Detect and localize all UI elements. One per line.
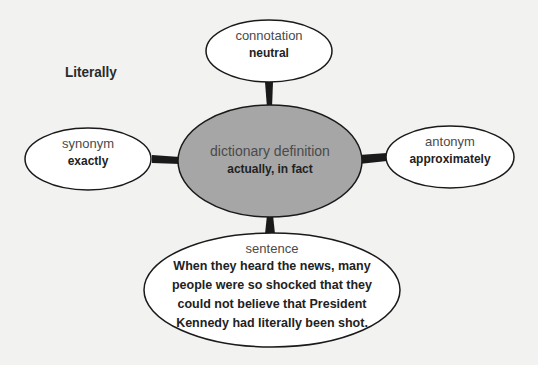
- synonym-label: synonym exactly: [25, 135, 151, 169]
- sentence-line: When they heard the news, many: [144, 257, 400, 276]
- sentence-line: Kennedy had literally been shot.: [144, 314, 400, 333]
- antonym-category: antonym: [386, 133, 514, 150]
- connector-synonym: [152, 155, 180, 164]
- antonym-value: approximately: [391, 150, 509, 167]
- center-label: dictionary definition actually, in fact: [178, 143, 362, 177]
- center-value: actually, in fact: [185, 160, 354, 177]
- connotation-category: connotation: [206, 27, 332, 44]
- connector-sentence: [265, 215, 275, 234]
- connotation-value: neutral: [211, 44, 327, 61]
- sentence-category: sentence: [144, 240, 400, 257]
- diagram-title: Literally: [65, 63, 117, 80]
- center-category: dictionary definition: [178, 143, 362, 160]
- sentence-label: sentence When they heard the news, many …: [144, 240, 400, 333]
- connector-antonym: [359, 153, 387, 164]
- connotation-label: connotation neutral: [206, 27, 332, 61]
- sentence-line: could not believe that President: [144, 295, 400, 314]
- connector-connotation: [265, 82, 273, 108]
- synonym-value: exactly: [30, 152, 146, 169]
- antonym-label: antonym approximately: [386, 133, 514, 167]
- synonym-category: synonym: [25, 135, 151, 152]
- sentence-line: people were so shocked that they: [144, 276, 400, 295]
